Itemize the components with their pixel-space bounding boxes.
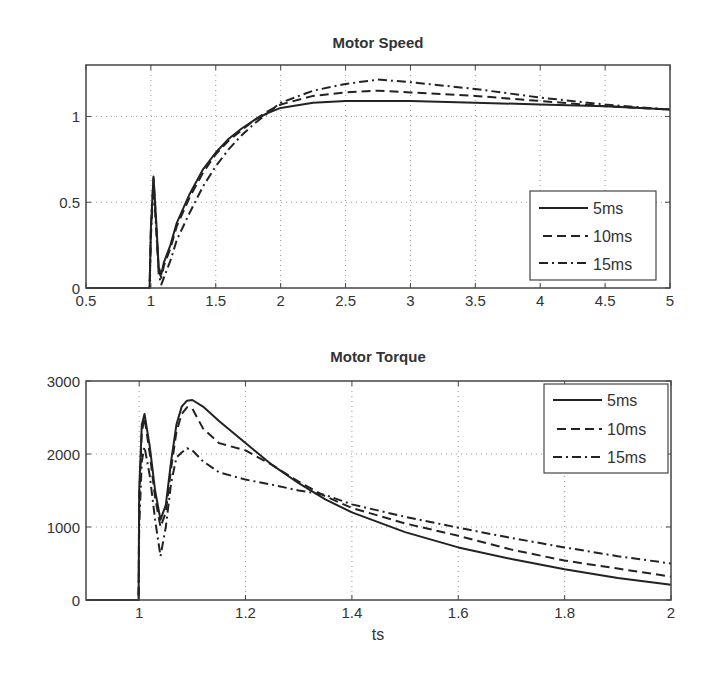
x-tick-label: 2 (667, 604, 675, 621)
y-tick-label: 3000 (47, 373, 80, 390)
legend-label: 15ms (593, 256, 632, 273)
legend-label: 10ms (593, 228, 632, 245)
motor-torque-chart: Motor Torque 11.21.41.61.820100020003000… (47, 348, 676, 643)
legend-label: 10ms (607, 421, 646, 438)
x-tick-label: 2.5 (335, 292, 356, 309)
motor-speed-title: Motor Speed (333, 34, 424, 51)
motor-speed-chart: Motor Speed 0.511.522.533.544.5500.51 5m… (59, 34, 674, 309)
y-tick-label: 0 (72, 592, 80, 609)
x-tick-label: 3.5 (465, 292, 486, 309)
x-tick-label: 1 (147, 292, 155, 309)
legend-label: 15ms (607, 449, 646, 466)
x-tick-label: 2 (276, 292, 284, 309)
legend-label: 5ms (607, 392, 637, 409)
x-tick-label: 5 (666, 292, 674, 309)
x-tick-label: 1.4 (341, 604, 362, 621)
y-tick-label: 0.5 (59, 194, 80, 211)
x-tick-label: 1 (135, 604, 143, 621)
x-tick-label: 4.5 (595, 292, 616, 309)
motor-torque-title: Motor Torque (330, 348, 426, 365)
x-tick-label: 1.2 (235, 604, 256, 621)
figure: Motor Speed 0.511.522.533.544.5500.51 5m… (0, 0, 712, 681)
y-tick-label: 2000 (47, 446, 80, 463)
x-tick-label: 4 (536, 292, 544, 309)
legend: 5ms 10ms 15ms (530, 191, 656, 280)
x-axis-label: ts (372, 626, 384, 643)
x-tick-label: 1.5 (205, 292, 226, 309)
x-tick-label: 1.6 (448, 604, 469, 621)
y-tick-label: 1000 (47, 519, 80, 536)
y-tick-label: 0 (72, 280, 80, 297)
y-tick-label: 1 (72, 108, 80, 125)
legend-label: 5ms (593, 200, 623, 217)
legend: 5ms 10ms 15ms (544, 384, 668, 473)
x-tick-label: 3 (406, 292, 414, 309)
x-tick-label: 1.8 (554, 604, 575, 621)
